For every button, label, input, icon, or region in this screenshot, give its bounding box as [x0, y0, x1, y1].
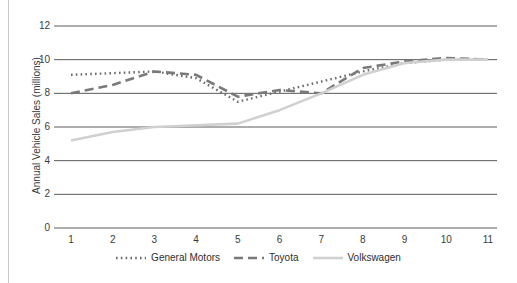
legend-label: General Motors — [151, 252, 220, 263]
chart-legend: General MotorsToyotaVolkswagen — [0, 252, 517, 263]
legend-item-toyota[interactable]: Toyota — [234, 252, 298, 263]
x-tick-label: 8 — [351, 235, 375, 245]
legend-swatch-dashed — [234, 253, 264, 263]
x-tick-label: 10 — [434, 235, 458, 245]
legend-item-volkswagen[interactable]: Volkswagen — [313, 252, 401, 263]
x-tick-label: 3 — [142, 235, 166, 245]
series-line-general-motors — [71, 60, 488, 102]
data-series-group — [71, 58, 488, 140]
x-tick-label: 7 — [309, 235, 333, 245]
y-tick-label: 12 — [24, 21, 50, 31]
series-line-toyota — [71, 58, 488, 97]
legend-label: Toyota — [269, 252, 298, 263]
legend-item-general-motors[interactable]: General Motors — [116, 252, 220, 263]
x-tick-label: 9 — [393, 235, 417, 245]
x-tick-label: 1 — [59, 235, 83, 245]
legend-swatch-solid — [313, 253, 343, 263]
x-tick-label: 11 — [476, 235, 500, 245]
x-tick-label: 5 — [226, 235, 250, 245]
plot-area: 121086420 1234567891011 Annual Vehicle S… — [0, 0, 517, 283]
x-tick-label: 4 — [184, 235, 208, 245]
y-axis-title: Annual Vehicle Sales (millions) — [31, 41, 42, 211]
gridlines — [54, 26, 497, 228]
y-tick-label: 0 — [24, 223, 50, 233]
x-tick-label: 2 — [101, 235, 125, 245]
legend-label: Volkswagen — [348, 252, 401, 263]
chart-figure: 121086420 1234567891011 Annual Vehicle S… — [0, 0, 517, 283]
legend-swatch-dotted — [116, 253, 146, 263]
x-tick-label: 6 — [268, 235, 292, 245]
